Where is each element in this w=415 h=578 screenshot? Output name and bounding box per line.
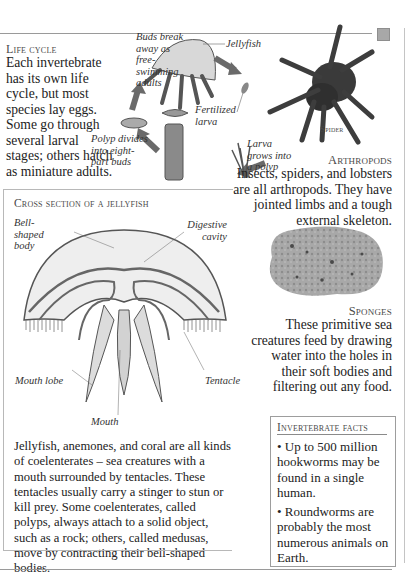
- arthropods-body: Insects, spiders, and lobsters are all a…: [225, 166, 392, 228]
- sponges-body: These primitive sea creatures feed by dr…: [250, 317, 392, 395]
- label-bell-shaped-body: Bell-shaped body: [14, 217, 59, 252]
- facts-divider: [277, 434, 387, 435]
- cross-section-heading: Cross section of a jellyfish: [14, 197, 149, 209]
- label-polyp: Polyp divides into eight-part buds: [91, 133, 151, 168]
- label-fertilized-larva: Fertilized larva: [195, 104, 239, 127]
- right-margin-rule: [404, 28, 405, 563]
- fact-item: • Up to 500 million hookworms may be fou…: [277, 439, 393, 500]
- sponge-photo: [262, 222, 390, 302]
- fact-item: • Roundworms are probably the most numer…: [277, 504, 393, 565]
- spider-caption: Spider: [320, 124, 344, 134]
- cross-section-frame-bottom: [3, 550, 232, 551]
- label-jellyfish: Jellyfish: [226, 38, 261, 50]
- bottom-rule: [0, 569, 392, 570]
- facts-heading: Invertebrate facts: [277, 421, 368, 433]
- label-mouth: Mouth: [91, 416, 118, 428]
- label-mouth-lobe: Mouth lobe: [15, 375, 63, 387]
- coelenterates-body: Jellyfish, anemones, and coral are all k…: [14, 439, 234, 577]
- label-buds-break: Buds break away as free-swimming adults: [136, 31, 192, 89]
- label-tentacle: Tentacle: [205, 375, 240, 387]
- facts-list: • Up to 500 million hookworms may be fou…: [277, 439, 393, 569]
- label-digestive-cavity: Digestive cavity: [182, 219, 227, 242]
